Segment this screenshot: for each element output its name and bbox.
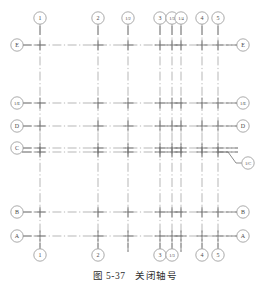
axis-bubble-right-hA-label: A [241,233,246,239]
figure-caption: 图5-37关闭轴号 [0,268,270,282]
axis-bubble-top-v1_2-label: 1/2 [125,16,131,21]
axis-bubble-right-hE[interactable]: E [237,39,249,51]
axis-bubble-bottom-v4-label: 4 [201,252,204,258]
axis-bubble-top-v1_4-label: 1/4 [178,16,184,21]
axis-bubble-right-hA[interactable]: A [237,230,249,242]
axis-bubble-right-hB-label: B [241,209,245,215]
axis-bubble-bottom-v1[interactable]: 1 [34,249,46,261]
axis-bubble-leader-h1_C[interactable]: 1/C [242,157,254,169]
axis-bubble-bottom-v2-label: 2 [97,252,100,258]
axis-bubble-bottom-v5[interactable]: 5 [212,249,224,261]
axis-bubble-top-v1[interactable]: 1 [34,12,46,24]
axis-bubble-right-h1_E[interactable]: 1/E [237,97,249,109]
axis-bubble-left-hD-label: D [15,123,20,129]
axis-bubble-bottom-v1_3[interactable]: 1/3 [166,249,178,261]
axis-bubble-top-v1-label: 1 [39,15,42,21]
axis-bubble-top-v1_4[interactable]: 1/4 [175,12,187,24]
axis-bubble-bottom-v1_3-label: 1/3 [169,253,175,258]
axis-bubble-leader-h1_C-label: 1/C [245,161,251,166]
axis-bubble-bottom-v2[interactable]: 2 [92,249,104,261]
axis-bubble-top-v5-label: 5 [217,15,220,21]
axis-bubble-left-hB-label: B [15,209,19,215]
axis-grid-drawing: 11221/2331/31/31/44455EE1/E1/EDDC1/CBBAA [0,0,270,293]
leader-segment-diagonal [228,152,236,163]
axis-bubble-left-hE-label: E [15,42,19,48]
axis-bubble-top-v4-label: 4 [201,15,204,21]
axis-bubble-right-hD-label: D [241,123,246,129]
axis-bubble-left-hC[interactable]: C [11,142,23,154]
axis-bubble-top-v2[interactable]: 2 [92,12,104,24]
axis-bubble-left-hD[interactable]: D [11,120,23,132]
axis-bubble-top-v2-label: 2 [97,15,100,21]
axis-bubble-top-v3[interactable]: 3 [154,12,166,24]
caption-number: 5-37 [106,271,125,281]
axis-bubble-left-h1_E-label: 1/E [14,101,20,106]
axis-bubble-left-h1_E[interactable]: 1/E [11,97,23,109]
axis-bubble-left-hA[interactable]: A [11,230,23,242]
axis-bubble-top-v3-label: 3 [159,15,162,21]
axis-bubble-bottom-v5-label: 5 [217,252,220,258]
axis-bubble-right-hE-label: E [241,42,245,48]
axis-bubble-bottom-v3-label: 3 [159,252,162,258]
axis-bubble-right-hB[interactable]: B [237,206,249,218]
axis-bubble-top-v5[interactable]: 5 [212,12,224,24]
axis-bubble-left-hB[interactable]: B [11,206,23,218]
axis-bubble-bottom-v1-label: 1 [39,252,42,258]
axis-bubble-top-v4[interactable]: 4 [196,12,208,24]
figure-container: 11221/2331/31/31/44455EE1/E1/EDDC1/CBBAA… [0,0,270,293]
axis-bubble-top-v1_2[interactable]: 1/2 [122,12,134,24]
axis-bubble-left-hC-label: C [15,145,19,151]
caption-title: 关闭轴号 [135,271,177,281]
axis-bubble-left-hE[interactable]: E [11,39,23,51]
axis-bubble-left-hA-label: A [15,233,20,239]
axis-bubble-right-hD[interactable]: D [237,120,249,132]
axis-bubble-right-h1_E-label: 1/E [240,101,246,106]
grid-lines-group [22,24,242,252]
axis-bubble-bottom-v4[interactable]: 4 [196,249,208,261]
caption-prefix: 图 [93,271,104,281]
axis-bubble-bottom-v3[interactable]: 3 [154,249,166,261]
